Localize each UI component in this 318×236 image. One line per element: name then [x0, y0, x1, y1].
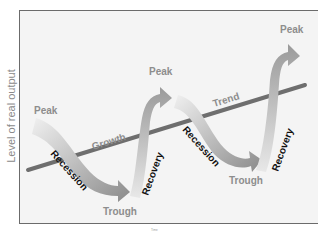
growth-label: Growth	[90, 131, 127, 152]
business-cycle-diagram: Peak Peak Peak Trough Trough Growth Tren…	[0, 0, 318, 236]
peak-label-3: Peak	[280, 24, 304, 35]
trough-label-2: Trough	[229, 175, 263, 186]
peak-label-2: Peak	[149, 66, 173, 77]
x-axis-footnote: Time	[151, 228, 158, 232]
peak-label-1: Peak	[34, 105, 58, 116]
trough-label-1: Trough	[103, 206, 137, 217]
